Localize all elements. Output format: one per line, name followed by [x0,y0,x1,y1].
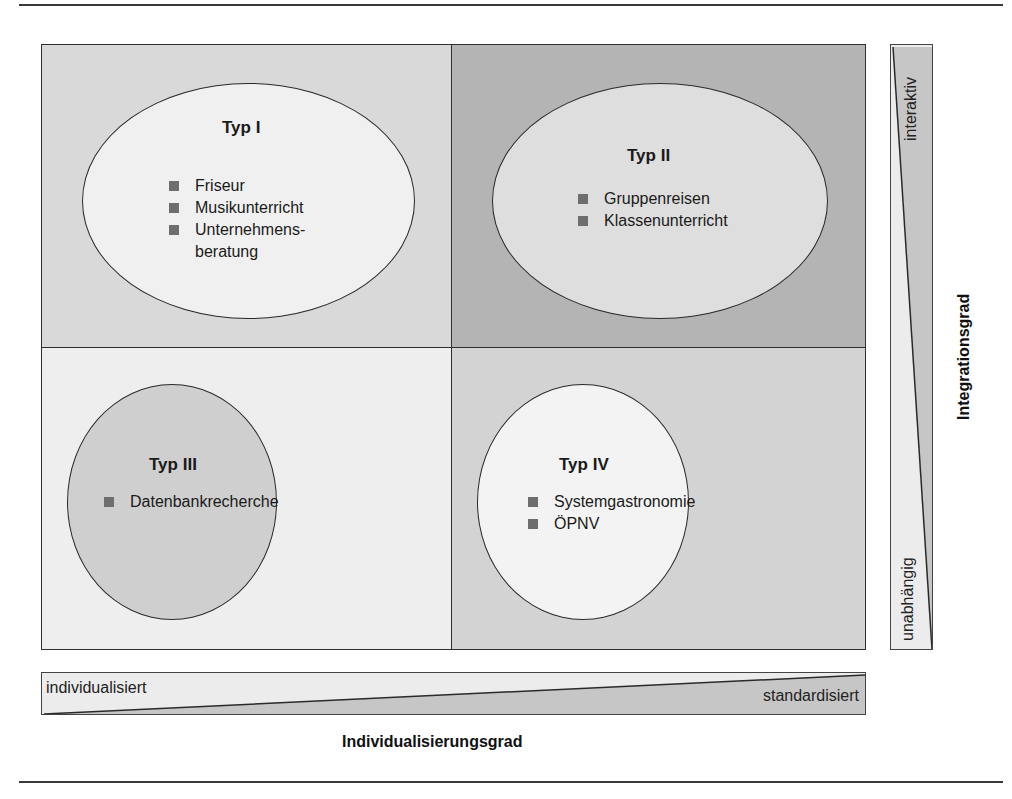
square-bullet-icon [104,497,114,507]
quadrant-typ-4: Typ IV Systemgastronomie ÖPNV [452,348,865,649]
standardized-label: standardisiert [763,687,859,705]
list-item: ÖPNV [528,513,695,535]
ellipse-typ-2: Typ II Gruppenreisen Klassenunterricht [492,83,828,319]
ellipse-typ-1: Typ I Friseur Musikunterricht Unternehme… [82,83,415,319]
typ-3-list: Datenbankrecherche [104,491,279,513]
list-item: Unternehmens-beratung [169,219,305,263]
quadrant-typ-2: Typ II Gruppenreisen Klassenunterricht [452,45,865,348]
typ-1-title: Typ I [222,118,260,138]
top-rule [19,4,1003,6]
square-bullet-icon [169,225,179,235]
typ-1-list: Friseur Musikunterricht Unternehmens-ber… [169,175,305,263]
square-bullet-icon [578,194,588,204]
square-bullet-icon [578,216,588,226]
square-bullet-icon [528,497,538,507]
typ-4-list: Systemgastronomie ÖPNV [528,491,695,535]
ellipse-typ-3: Typ III Datenbankrecherche [67,384,277,620]
list-item: Klassenunterricht [578,210,728,232]
ellipse-typ-4: Typ IV Systemgastronomie ÖPNV [477,384,689,620]
wedge-graphic-horizontal [42,673,866,715]
individualization-scale-bar: individualisiert standardisiert [41,672,866,715]
list-item: Systemgastronomie [528,491,695,513]
bottom-rule [19,781,1003,783]
typ-4-title: Typ IV [559,455,609,475]
typ-2-title: Typ II [627,146,670,166]
list-item: Friseur [169,175,305,197]
list-item: Datenbankrecherche [104,491,279,513]
integration-scale-bar: interaktiv unabhängig [890,44,933,650]
quadrant-typ-3: Typ III Datenbankrecherche [42,348,452,649]
typ-3-title: Typ III [149,455,197,475]
integration-top-label: interaktiv [902,77,920,141]
square-bullet-icon [169,181,179,191]
vertical-axis-title: Integrationsgrad [955,294,973,420]
typ-2-list: Gruppenreisen Klassenunterricht [578,188,728,232]
square-bullet-icon [528,519,538,529]
square-bullet-icon [169,203,179,213]
typology-matrix: Typ I Friseur Musikunterricht Unternehme… [41,44,866,650]
individualized-label: individualisiert [46,679,147,697]
integration-bottom-label: unabhängig [899,557,917,641]
list-item: Gruppenreisen [578,188,728,210]
quadrant-typ-1: Typ I Friseur Musikunterricht Unternehme… [42,45,452,348]
list-item: Musikunterricht [169,197,305,219]
horizontal-axis-title: Individualisierungsgrad [342,733,522,751]
